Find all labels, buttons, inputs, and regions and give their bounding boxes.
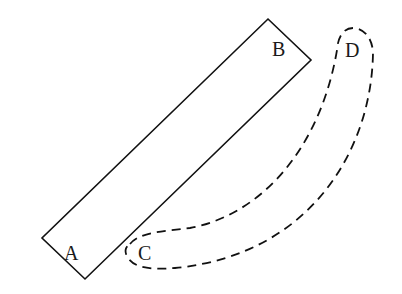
rod-rectangle-ab — [42, 19, 311, 279]
label-b: B — [272, 38, 285, 60]
diagram-canvas: A B C D — [0, 0, 402, 294]
rotated-rod-outline-cd — [126, 28, 373, 269]
label-a: A — [64, 242, 79, 264]
label-d: D — [345, 39, 359, 61]
label-c: C — [138, 242, 151, 264]
